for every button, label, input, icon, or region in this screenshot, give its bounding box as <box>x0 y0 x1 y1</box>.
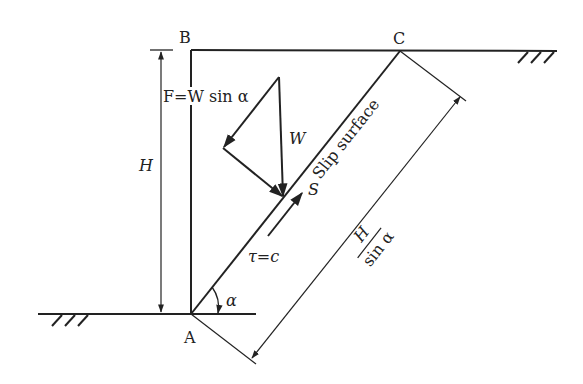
diagram-canvas: B C A H F=W sin α W Slip surface S τ=c α… <box>0 0 583 384</box>
point-label-B: B <box>179 28 191 47</box>
weight-vector <box>279 77 283 196</box>
driving-force-label: F=W sin α <box>163 87 249 106</box>
normal-component-vector <box>223 148 282 196</box>
extension-line-A <box>191 314 256 364</box>
angle-arc <box>212 287 219 313</box>
top-ground-line <box>191 50 557 51</box>
slope-stability-diagram: B C A H F=W sin α W Slip surface S τ=c α… <box>0 0 583 384</box>
height-label: H <box>138 156 154 175</box>
resisting-force-label: S <box>308 180 319 199</box>
resisting-force-arrow <box>268 193 302 236</box>
slip-length-label: H sin α <box>341 214 398 271</box>
point-label-C: C <box>393 29 405 48</box>
ground-hatch-icon <box>518 52 554 63</box>
angle-label: α <box>226 291 237 310</box>
extension-line-C <box>400 51 466 101</box>
slip-surface-label: Slip surface <box>308 95 383 182</box>
weight-label: W <box>289 129 307 148</box>
point-label-A: A <box>183 328 196 347</box>
ground-hatch-icon <box>52 315 88 326</box>
shear-strength-label: τ=c <box>248 247 279 266</box>
